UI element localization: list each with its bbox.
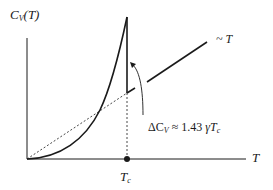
plot-canvas [0,0,273,190]
normal-state-line [147,42,207,82]
tc-label: Tc [120,170,131,185]
jump-annotation: ΔCV ≈ 1.43 γTc [148,121,220,135]
superconducting-curve [27,17,127,159]
normal-state-extrapolation [27,93,127,159]
linear-trend-label: ~ T [216,33,232,45]
annotation-arrow [133,65,143,115]
specific-heat-diagram: CV(T) T Tc ~ T ΔCV ≈ 1.43 γTc [0,0,273,190]
normal-state-line-start [127,88,135,93]
tc-marker [124,156,130,162]
x-axis-label: T [252,151,259,164]
y-axis-label: CV(T) [10,8,39,23]
